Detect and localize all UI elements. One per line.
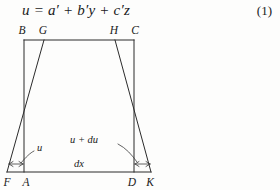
vertex-label-B: B [18, 24, 25, 36]
vertex-label-F: F [2, 176, 11, 188]
vertex-label-A: A [21, 176, 30, 188]
vertex-label-H: H [109, 24, 119, 36]
vertex-label-G: G [39, 24, 48, 36]
scanned-page-fragment: u = a′ + b′y + c′z (1) [0, 0, 280, 190]
vertex-label-K: K [145, 176, 155, 188]
right-displacement-label: u + du [70, 134, 98, 145]
baseline-length-label: dx [74, 158, 84, 169]
diagram-canvas: u u + du dx B G H C F A D K [0, 24, 280, 190]
vertex-label-D: D [127, 176, 137, 188]
deformation-diagram: u u + du dx B G H C F A D K [0, 24, 280, 190]
equation-line: u = a′ + b′y + c′z (1) [0, 2, 280, 24]
deformed-right-edge-HK [115, 40, 151, 172]
vertex-label-C: C [131, 24, 139, 36]
left-displacement-label: u [37, 142, 42, 153]
left-leader-line [21, 151, 34, 163]
equation-body: u = a′ + b′y + c′z [22, 2, 130, 19]
equation-number: (1) [257, 3, 272, 19]
